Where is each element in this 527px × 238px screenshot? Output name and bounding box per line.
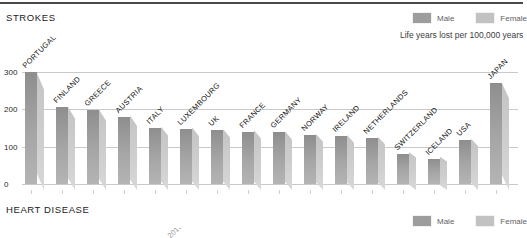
axis-tick (248, 190, 249, 194)
legend-label-male-heart: Male (437, 217, 454, 226)
heart-disease-section-title: HEART DISEASE (6, 204, 89, 215)
bar-male-face (56, 107, 68, 184)
bar-female-face (68, 107, 75, 190)
bar-male-face (366, 138, 378, 184)
bars-container: PORTUGALFINLANDGREECEAUSTRIAITALYLUXEMBO… (22, 64, 518, 184)
axis-tick (155, 190, 156, 194)
bar-male-face (335, 136, 347, 184)
bar-group[interactable]: PORTUGAL (25, 72, 45, 185)
legend-swatch-male-icon (412, 215, 432, 227)
bar-group[interactable]: ITALY (149, 128, 169, 184)
category-label: USA (455, 120, 473, 138)
legend-item-male-heart: Male (412, 215, 454, 227)
bar-group[interactable]: FRANCE (242, 132, 262, 185)
bar-male-face (459, 140, 471, 184)
category-label: ICELAND (424, 126, 455, 157)
bar-female-face (285, 131, 292, 190)
legend-label-female-heart: Female (500, 217, 527, 226)
bar-group[interactable]: FINLAND (56, 107, 76, 184)
axis-tick (279, 190, 280, 194)
bar-female-face (161, 127, 168, 190)
axis-tick (186, 190, 187, 194)
legend-swatch-male-icon (412, 12, 432, 24)
axis-tick (31, 190, 32, 194)
category-label: PORTUGAL (21, 32, 58, 69)
legend-swatch-female-icon (475, 12, 495, 24)
legend-swatch-female-icon (475, 215, 495, 227)
axis-tick (434, 190, 435, 194)
bar-male-face (242, 132, 254, 185)
axis-tick (62, 190, 63, 194)
bar-group[interactable]: AUSTRIA (118, 117, 138, 185)
category-label: NORWAY (300, 102, 331, 133)
heart-disease-chart-clipped: 2019 (22, 228, 518, 238)
legend-item-female: Female (475, 12, 527, 24)
axis-tick (465, 190, 466, 194)
bar-female-face (347, 135, 354, 190)
bar-male-face (25, 72, 37, 185)
strokes-section-title: STROKES (6, 12, 56, 23)
bar-female-face (223, 129, 230, 190)
bar-group[interactable]: NORWAY (304, 135, 324, 184)
bar-female-face (502, 83, 509, 190)
bar-male-face (304, 135, 316, 184)
legend-heart-disease: Male Female (412, 215, 527, 227)
bar-group[interactable]: UK (211, 130, 231, 184)
bar-male-face (180, 129, 192, 185)
bar-group[interactable]: IRELAND (335, 136, 355, 184)
bar-group[interactable]: NETHERLANDS (366, 138, 386, 184)
legend-item-male: Male (412, 12, 454, 24)
y-axis-tick-label: 100 (4, 142, 17, 151)
bar-female-face (316, 134, 323, 190)
bar-male-face (87, 110, 99, 184)
bar-group[interactable]: SWITZERLAND (397, 154, 417, 184)
bar-female-face (440, 157, 447, 190)
bar-female-face (192, 128, 199, 191)
axis-tick (124, 190, 125, 194)
bar-female-face (37, 73, 44, 190)
category-label: FRANCE (238, 100, 267, 129)
legend-item-female-heart: Female (475, 215, 527, 227)
bar-group[interactable]: ICELAND (428, 159, 448, 185)
category-label: UK (207, 114, 221, 128)
bar-male-face (118, 117, 130, 185)
bar-male-face (397, 154, 409, 184)
category-label: ITALY (145, 104, 166, 125)
bar-male-face (428, 159, 440, 185)
bar-female-face (99, 110, 106, 191)
bar-group[interactable]: LUXEMBOURG (180, 129, 200, 185)
bar-group[interactable]: USA (459, 140, 479, 184)
y-axis-tick-label: 300 (4, 67, 17, 76)
legend-strokes: Male Female (412, 12, 527, 24)
legend-label-female: Female (500, 14, 527, 23)
bar-group[interactable]: GERMANY (273, 132, 293, 184)
y-axis-tick-label: 0 (4, 180, 8, 189)
category-label: IRELAND (331, 103, 362, 134)
bar-female-face (409, 152, 416, 190)
category-label: GERMANY (269, 96, 304, 131)
axis-tick (372, 190, 373, 194)
category-label: FINLAND (52, 75, 83, 106)
axis-tick (93, 190, 94, 194)
bar-male-face (149, 128, 161, 184)
axis-tick (496, 190, 497, 194)
top-divider-rule (0, 2, 523, 4)
bar-female-face (378, 137, 385, 190)
bar-male-face (273, 132, 285, 184)
strokes-plot-area: PORTUGALFINLANDGREECEAUSTRIAITALYLUXEMBO… (22, 64, 518, 184)
category-label: NETHERLANDS (362, 88, 410, 136)
bar-female-face (130, 116, 137, 191)
category-label: AUSTRIA (114, 84, 145, 115)
axis-tick (310, 190, 311, 194)
category-label: GREECE (83, 78, 113, 108)
y-axis-tick-label: 200 (4, 105, 17, 114)
bar-group[interactable]: GREECE (87, 110, 107, 184)
y-axis-labels: 0100200300 (4, 64, 22, 184)
axis-tick (341, 190, 342, 194)
bar-female-face (254, 130, 261, 190)
axis-tick (217, 190, 218, 194)
bar-male-face (490, 83, 502, 184)
bar-group[interactable]: JAPAN (490, 83, 510, 184)
axis-tick (403, 190, 404, 194)
